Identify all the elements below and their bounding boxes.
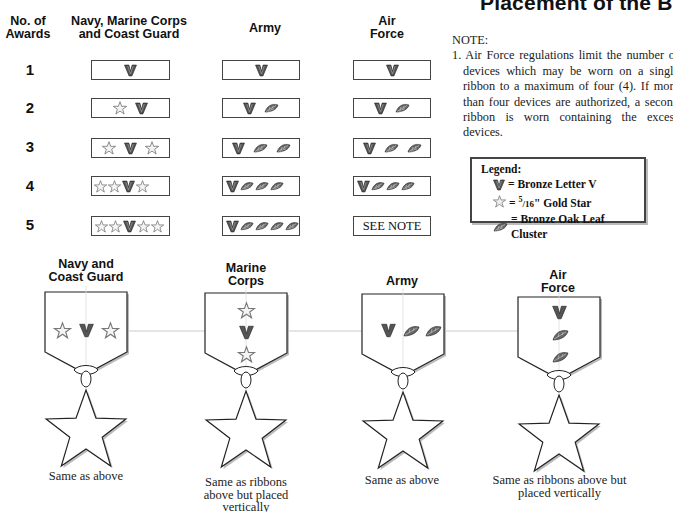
medal-header-marine-corps: MarineCorps [206, 262, 286, 288]
medal-header-navy-coast-guard: Navy andCoast Guard [30, 258, 142, 284]
medal-air-force [518, 291, 602, 473]
star-pendant [363, 392, 443, 468]
medal-navy-coast-guard [45, 286, 129, 468]
medal-header-army: Army [362, 275, 442, 288]
star-pendant [46, 390, 126, 466]
medal-caption-navy: Same as above [26, 470, 146, 483]
medal-illustrations [0, 0, 673, 512]
medal-caption-army: Same as above [342, 474, 462, 487]
medal-header-air-force: AirForce [518, 269, 598, 295]
medal-caption-air-force: Same as ribbons above butplaced vertical… [482, 474, 637, 499]
star-pendant [206, 391, 286, 467]
star-pendant [519, 395, 599, 471]
medal-caption-marine: Same as ribbonsabove but placedverticall… [190, 476, 302, 512]
medal-army [362, 288, 446, 470]
medal-marine-corps [205, 287, 289, 469]
